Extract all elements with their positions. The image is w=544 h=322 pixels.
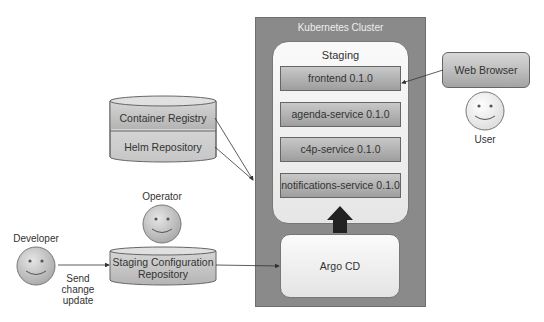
developer-label: Developer bbox=[6, 233, 66, 244]
operator-label: Operator bbox=[132, 191, 192, 202]
edge-label-line2: change bbox=[58, 284, 98, 295]
config-repo-line1: Staging Configuration bbox=[110, 256, 216, 268]
config-repo-label: Staging Configuration Repository bbox=[110, 256, 216, 280]
user-smiley-icon bbox=[466, 92, 504, 130]
user-label: User bbox=[455, 134, 515, 145]
operator-smiley-icon bbox=[143, 205, 181, 243]
deploy-arrow-icon bbox=[327, 206, 353, 233]
send-change-update-label: Send change update bbox=[58, 273, 98, 306]
helm-repository-label: Helm Repository bbox=[110, 141, 216, 153]
edge-label-line3: update bbox=[58, 295, 98, 306]
developer-smiley-icon bbox=[17, 247, 55, 285]
container-registry-label: Container Registry bbox=[110, 112, 216, 124]
config-repo-line2: Repository bbox=[110, 268, 216, 280]
edge-label-line1: Send bbox=[58, 273, 98, 284]
